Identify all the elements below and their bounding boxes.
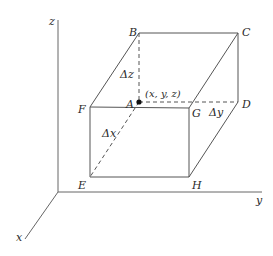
z-axis-label: z <box>48 15 55 28</box>
vertex-C-label: C <box>242 26 251 39</box>
edge-FG <box>90 107 189 108</box>
vertex-E-label: E <box>77 179 86 192</box>
edge-CG <box>189 33 238 108</box>
box-diagram: z y x B C F A G D E H (x, y, z) Δz Δx Δy <box>0 0 273 256</box>
point-coordinates-label: (x, y, z) <box>145 88 181 99</box>
delta-z-label: Δz <box>119 68 134 81</box>
vertex-D-label: D <box>241 98 251 111</box>
vertex-H-label: H <box>191 179 202 192</box>
delta-x-label: Δx <box>101 127 117 140</box>
box-edges <box>90 33 238 177</box>
diagram-canvas: z y x B C F A G D E H (x, y, z) Δz Δx Δy <box>0 0 273 256</box>
delta-y-label: Δy <box>208 106 224 119</box>
vertex-B-label: B <box>128 26 137 39</box>
point-A-marker <box>136 99 141 104</box>
vertex-G-label: G <box>192 107 201 120</box>
vertex-A-label: A <box>125 98 134 111</box>
vertex-F-label: F <box>77 103 86 116</box>
x-axis-label: x <box>16 231 23 244</box>
hidden-edges <box>90 33 238 177</box>
axes <box>25 20 262 239</box>
x-axis <box>25 192 58 239</box>
y-axis-label: y <box>255 194 263 207</box>
